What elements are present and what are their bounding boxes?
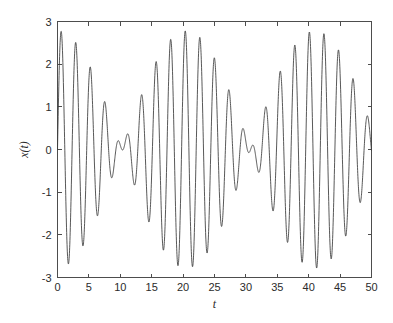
y-axis-title: x(t) [17, 141, 31, 159]
y-tick-label: -3 [42, 272, 52, 284]
y-tick-label: 2 [45, 58, 51, 70]
y-tick-label: 3 [45, 16, 51, 28]
y-tick-label: -1 [42, 186, 52, 198]
x-tick-label: 5 [86, 281, 92, 293]
y-tick-label: 0 [45, 144, 51, 156]
figure-canvas: 05101520253035404550 -3-2-10123 t x(t) [0, 0, 393, 323]
y-tick-label: -2 [42, 229, 52, 241]
x-tick-label: 20 [177, 281, 189, 293]
y-tick-label: 1 [45, 101, 51, 113]
x-tick-label: 0 [54, 281, 60, 293]
x-tick-label: 10 [114, 281, 126, 293]
x-tick-label: 25 [208, 281, 220, 293]
x-tick-label: 50 [365, 281, 377, 293]
x-tick-label: 45 [334, 281, 346, 293]
x-tick-label: 35 [271, 281, 283, 293]
x-tick-label: 40 [303, 281, 315, 293]
line-chart: 05101520253035404550 -3-2-10123 t x(t) [0, 0, 393, 323]
x-tick-label: 30 [240, 281, 252, 293]
x-tick-label: 15 [146, 281, 158, 293]
chart-background [0, 0, 393, 323]
